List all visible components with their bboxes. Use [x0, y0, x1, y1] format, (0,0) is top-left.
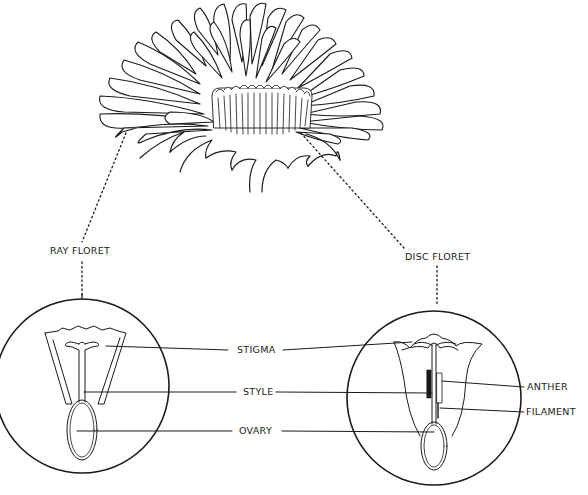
ray-floret-illustration: [0, 294, 169, 473]
composite-flower-diagram: RAY FLORET DISC FLORET STIGMA STYLE OVAR…: [0, 0, 588, 495]
disc-floret-label: DISC FLORET: [405, 252, 470, 262]
disc-florets-cluster: [212, 85, 312, 134]
dotted-connectors: [82, 133, 437, 306]
filament-label: FILAMENT: [526, 407, 576, 417]
ray-floret-label: RAY FLORET: [50, 246, 110, 256]
anther-label: ANTHER: [527, 382, 568, 392]
ovary-label: OVARY: [239, 426, 272, 436]
style-label: STYLE: [243, 387, 273, 397]
leader-lines: [77, 342, 524, 432]
involucral-bracts: [140, 132, 340, 192]
stigma-label: STIGMA: [237, 345, 276, 355]
disc-floret-illustration: [347, 311, 521, 485]
